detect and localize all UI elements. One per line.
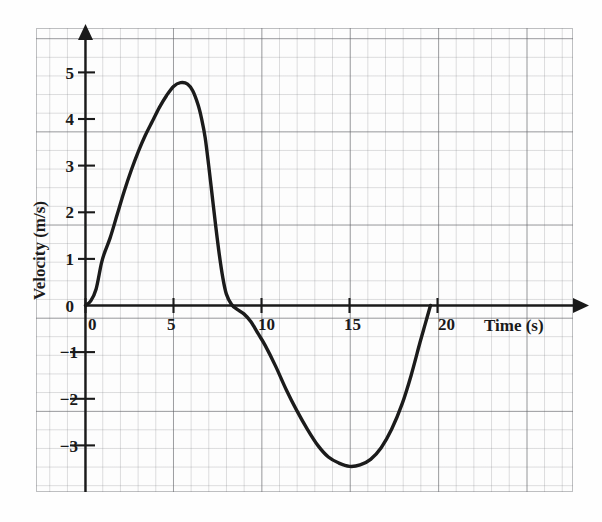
y-tick-label-0: 0 — [66, 297, 75, 316]
y-tick-label-neg2: −2 — [60, 390, 78, 409]
velocity-curve — [86, 83, 431, 467]
y-axis-title: Velocity (m/s) — [30, 201, 49, 300]
y-tick-label-neg1: −1 — [60, 343, 78, 362]
x-tick-labels: 0 5 10 15 20 — [88, 315, 455, 334]
x-tick-label-10: 10 — [258, 315, 275, 334]
x-axis-title: Time (s) — [484, 316, 544, 335]
y-tick-label-neg3: −3 — [60, 437, 78, 456]
y-tick-label-1: 1 — [66, 250, 75, 269]
x-axis-arrow-icon — [573, 298, 589, 313]
y-tick-label-4: 4 — [66, 110, 75, 129]
y-axis-arrow-icon — [78, 24, 93, 40]
x-axis — [85, 298, 589, 313]
x-tick-label-20: 20 — [438, 315, 455, 334]
y-tick-label-2: 2 — [66, 203, 75, 222]
x-tick-label-15: 15 — [344, 315, 361, 334]
velocity-time-plot: 0 5 10 15 20 5 4 3 2 1 0 −1 −2 −3 Time (… — [0, 0, 602, 522]
chart-screenshot: 0 5 10 15 20 5 4 3 2 1 0 −1 −2 −3 Time (… — [0, 0, 602, 522]
x-tick-label-5: 5 — [167, 315, 176, 334]
x-tick-label-0: 0 — [88, 315, 97, 334]
y-tick-labels: 5 4 3 2 1 0 −1 −2 −3 — [60, 64, 78, 456]
y-tick-label-5: 5 — [66, 64, 75, 83]
y-tick-label-3: 3 — [66, 157, 75, 176]
